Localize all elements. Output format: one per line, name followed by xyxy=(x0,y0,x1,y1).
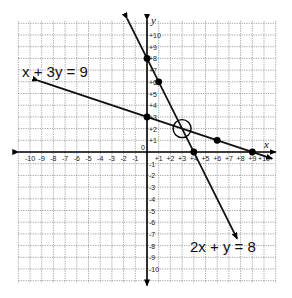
origin-label: 0 xyxy=(141,144,145,151)
x-tick-label: -5 xyxy=(85,155,91,162)
x-tick-label: +5 xyxy=(202,155,210,162)
y-tick-label: +1 xyxy=(149,137,157,144)
x-tick-label: -8 xyxy=(50,155,56,162)
y-tick-label: -9 xyxy=(149,254,155,261)
y-tick-label: -2 xyxy=(149,172,155,179)
y-tick-label: +10 xyxy=(149,32,161,39)
y-axis-label: y xyxy=(150,14,156,26)
plotted-point xyxy=(214,137,221,144)
x-axis-label: x xyxy=(263,138,269,150)
y-tick-label: -10 xyxy=(149,266,159,273)
x-tick-label: -3 xyxy=(109,155,115,162)
x-tick-label: +9 xyxy=(248,155,256,162)
plotted-point xyxy=(249,149,256,156)
x-tick-label: -2 xyxy=(120,155,126,162)
y-tick-label: +4 xyxy=(149,102,157,109)
y-tick-label: +9 xyxy=(149,44,157,51)
y-tick-label: -4 xyxy=(149,196,155,203)
x-tick-label: +8 xyxy=(237,155,245,162)
plotted-point xyxy=(144,55,151,62)
x-tick-label: -7 xyxy=(62,155,68,162)
y-tick-label: -5 xyxy=(149,208,155,215)
x-tick-label: +2 xyxy=(166,155,174,162)
plotted-point xyxy=(190,149,197,156)
y-tick-label: +5 xyxy=(149,91,157,98)
x-tick-label: +1 xyxy=(155,155,163,162)
x-tick-label: +6 xyxy=(213,155,221,162)
x-tick-label: -1 xyxy=(132,155,138,162)
y-tick-label: -3 xyxy=(149,184,155,191)
y-tick-label: +2 xyxy=(149,126,157,133)
plotted-point xyxy=(155,78,162,85)
y-tick-label: -1 xyxy=(149,161,155,168)
equation-labels: x + 3y = 9 2x + y = 8 y x xyxy=(22,14,269,255)
y-tick-label: -8 xyxy=(149,243,155,250)
y-tick-label: -7 xyxy=(149,231,155,238)
x-tick-label: -10 xyxy=(25,155,35,162)
x-tick-label: -9 xyxy=(39,155,45,162)
x-tick-label: +3 xyxy=(178,155,186,162)
x-tick-label: -4 xyxy=(97,155,103,162)
x-tick-label: -6 xyxy=(74,155,80,162)
y-tick-label: -6 xyxy=(149,219,155,226)
coordinate-plane: -10-9-8-7-6-5-4-3-2-1+1+2+3+4+5+6+7+8+9+… xyxy=(0,0,292,298)
x-tick-label: +7 xyxy=(225,155,233,162)
equation-label-2: 2x + y = 8 xyxy=(190,238,256,255)
plotted-point xyxy=(144,114,151,121)
equation-label-1: x + 3y = 9 xyxy=(22,63,88,80)
